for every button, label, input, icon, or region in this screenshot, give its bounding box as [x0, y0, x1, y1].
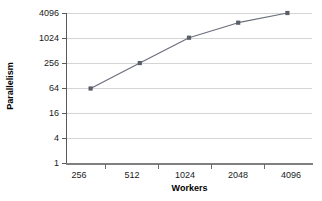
gridline-16 [66, 113, 312, 114]
x-tick-3 [211, 164, 212, 169]
y-tick-4 [62, 138, 66, 139]
gridline-4096 [66, 13, 312, 14]
y-tick-label-1: 1 [54, 158, 59, 168]
gridline-1024 [66, 38, 312, 39]
x-axis-line [66, 163, 313, 165]
x-axis-title: Workers [66, 183, 313, 193]
y-tick-label-64: 64 [49, 83, 59, 93]
gridline-256 [66, 63, 312, 64]
y-axis-line [66, 13, 67, 164]
y-tick-1 [62, 163, 66, 164]
gridline-64 [66, 88, 312, 89]
x-tick-4 [264, 164, 265, 169]
plot-area [66, 13, 312, 164]
y-tick-1024 [62, 38, 66, 39]
y-tick-label-256: 256 [44, 58, 59, 68]
y-tick-256 [62, 63, 66, 64]
y-tick-label-4096: 4096 [39, 8, 59, 18]
y-axis-title: Parallelism [5, 48, 15, 124]
y-tick-64 [62, 88, 66, 89]
x-tick-label-4096: 4096 [266, 170, 316, 181]
x-tick-label-512: 512 [107, 170, 157, 181]
x-tick-1 [105, 164, 106, 169]
y-tick-label-4: 4 [54, 133, 59, 143]
chart-container: 4096 1024 256 64 16 4 1 256 512 1024 204… [0, 0, 322, 201]
y-tick-16 [62, 113, 66, 114]
y-tick-4096 [62, 13, 66, 14]
y-tick-label-16: 16 [49, 108, 59, 118]
x-tick-label-256: 256 [54, 170, 104, 181]
x-tick-label-2048: 2048 [213, 170, 263, 181]
x-tick-label-1024: 1024 [160, 170, 210, 181]
gridline-4 [66, 138, 312, 139]
y-tick-label-1024: 1024 [39, 33, 59, 43]
x-tick-2 [158, 164, 159, 169]
